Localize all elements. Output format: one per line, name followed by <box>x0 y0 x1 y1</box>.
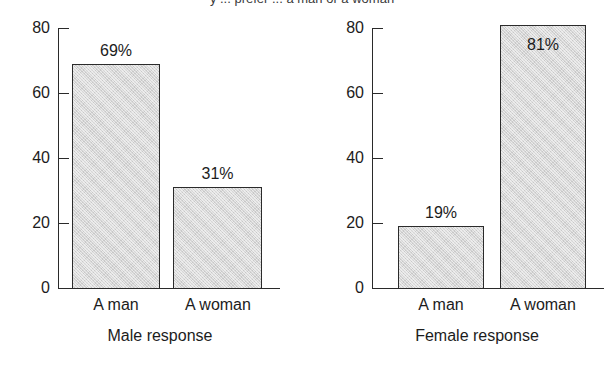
right-chart-bar-a-woman[interactable] <box>500 25 586 289</box>
left-chart-tick-label-20: 20 <box>0 215 50 231</box>
left-chart-bar-value-a-woman: 31% <box>173 165 262 183</box>
left-chart-tick-label-40: 40 <box>0 150 50 166</box>
left-chart-tick-label-60: 60 <box>0 85 50 101</box>
right-chart-tick-label-60: 60 <box>314 85 364 101</box>
right-chart-tick-40 <box>372 158 383 159</box>
right-chart-tick-80 <box>372 28 383 29</box>
chart-panel-male-response: 80 60 40 20 0 69% 31% A man A woman Male… <box>0 0 300 366</box>
figure-two-bar-charts: y ... prefer ... a man or a woman 80 60 … <box>0 0 604 366</box>
left-chart-category-label-a-woman: A woman <box>163 296 273 314</box>
right-chart-tick-label-40: 40 <box>314 150 364 166</box>
left-chart-axis-caption: Male response <box>40 327 280 345</box>
chart-panel-female-response: 80 60 40 20 0 19% 81% A man A woman Fema… <box>300 0 604 366</box>
left-chart-tick-40 <box>58 158 69 159</box>
right-chart-tick-20 <box>372 223 383 224</box>
left-chart-bar-a-woman[interactable] <box>173 187 262 289</box>
right-chart-bar-value-a-man: 19% <box>398 204 484 222</box>
right-chart-tick-label-0: 0 <box>314 280 364 296</box>
left-chart-bar-value-a-man: 69% <box>72 42 160 60</box>
right-chart-tick-label-20: 20 <box>314 215 364 231</box>
left-chart-tick-20 <box>58 223 69 224</box>
left-chart-category-label-a-man: A man <box>62 296 170 314</box>
right-chart-axis-caption: Female response <box>352 327 602 345</box>
right-chart-bar-value-a-woman: 81% <box>500 36 586 54</box>
right-chart-bar-a-man[interactable] <box>398 226 484 289</box>
right-chart-tick-label-80: 80 <box>314 20 364 36</box>
left-chart-tick-80 <box>58 28 69 29</box>
left-chart-tick-label-80: 80 <box>0 20 50 36</box>
left-chart-bar-a-man[interactable] <box>72 64 160 289</box>
right-chart-category-label-a-woman: A woman <box>488 296 598 314</box>
left-chart-tick-60 <box>58 93 69 94</box>
right-chart-category-label-a-man: A man <box>388 296 494 314</box>
left-chart-tick-label-0: 0 <box>0 280 50 296</box>
right-chart-tick-60 <box>372 93 383 94</box>
